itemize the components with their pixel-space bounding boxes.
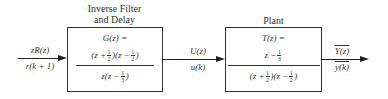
output-arrow-line — [322, 59, 362, 60]
block-t-name: T(z) = — [226, 33, 321, 43]
middle-label-k: u(k) — [178, 62, 218, 72]
block-g-fraction-bar — [76, 65, 154, 66]
fraction-third: 13 — [121, 70, 125, 83]
block-g-title-line1: Inverse Filter — [67, 3, 162, 14]
block-t: T(z) = z −13 (z +12)(z −12) — [225, 27, 322, 92]
block-g-title-line2: and Delay — [67, 14, 162, 25]
input-label-k: r(k + 1) — [14, 61, 66, 71]
output-label-z: Y(z) — [327, 46, 357, 56]
block-g: G(z) = (z +12)(z −12) z(z −13) — [67, 27, 163, 92]
block-g-numerator: (z +12)(z −12) — [68, 49, 162, 62]
middle-label-z: U(z) — [178, 46, 218, 56]
block-g-title: Inverse Filter and Delay — [67, 3, 162, 25]
fraction-half: 12 — [131, 49, 135, 62]
middle-arrow-line — [163, 59, 218, 60]
input-arrow-line — [18, 58, 60, 59]
fraction-half: 12 — [107, 49, 111, 62]
block-g-name: G(z) = — [68, 33, 162, 43]
output-arrowhead — [360, 56, 369, 62]
block-t-title: Plant — [225, 15, 322, 26]
block-t-numerator: z −13 — [226, 49, 321, 62]
block-g-denominator: z(z −13) — [68, 70, 162, 83]
fraction-third: 13 — [277, 49, 281, 62]
block-t-fraction-bar — [228, 65, 320, 66]
fraction-half: 12 — [266, 70, 270, 83]
fraction-half: 12 — [289, 70, 293, 83]
input-label-z: zR(z) — [18, 45, 62, 55]
output-label-k: y(k) — [327, 62, 357, 72]
block-t-denominator: (z +12)(z −12) — [226, 70, 321, 83]
